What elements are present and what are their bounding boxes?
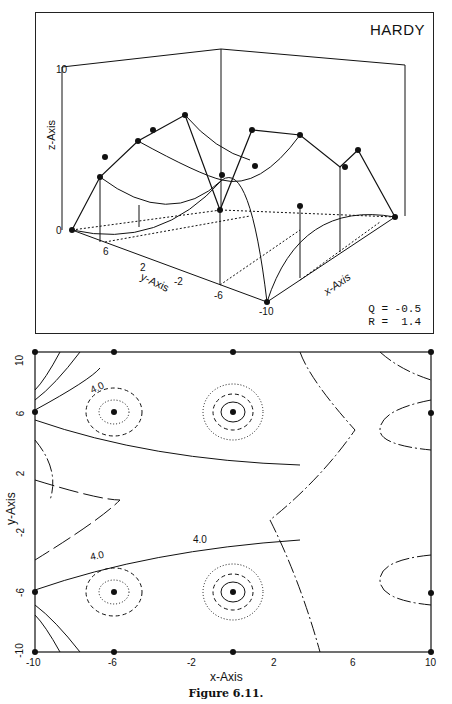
contour-plot-graphic [0,0,452,704]
x-axis-label: x-Axis [210,670,243,684]
x-tick: 6 [350,657,356,668]
y-tick: -6 [15,588,26,597]
x-tick: -2 [187,657,196,668]
y-tick: 10 [14,355,25,366]
x-tick: 10 [425,657,436,668]
y-axis-label: y-Axis [4,492,18,525]
contour-label: 4.0 [193,534,207,545]
x-tick: -10 [26,657,40,668]
y-tick: 6 [15,411,26,417]
x-tick: -6 [108,657,117,668]
figure-caption: Figure 6.11. [0,687,452,700]
y-tick: 2 [15,471,26,477]
y-tick: -10 [14,643,25,657]
x-tick: 2 [271,657,277,668]
y-tick: -2 [15,528,26,537]
